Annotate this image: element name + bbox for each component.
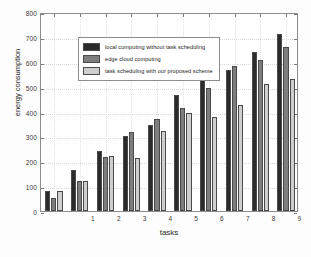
- legend-item-local-computing: local computing without task scheduling: [83, 41, 215, 53]
- legend-swatch-local-computing: [83, 43, 100, 51]
- bar: [83, 181, 88, 211]
- bar: [283, 47, 288, 211]
- y-tick-mark: [41, 39, 44, 40]
- y-tick-label: 400: [26, 109, 37, 116]
- legend-label-proposed-scheme: task scheduling with our proposed scheme: [105, 68, 213, 74]
- y-tick-label: 300: [26, 134, 37, 141]
- x-tick-label: 9: [297, 215, 301, 222]
- y-axis-label: energy consumption: [13, 23, 22, 143]
- x-tick-label: 6: [220, 215, 224, 222]
- bar: [238, 105, 243, 211]
- y-tick-mark: [41, 14, 44, 15]
- legend-label-edge-cloud: edge cloud computing: [105, 56, 161, 62]
- y-tick-mark: [41, 114, 44, 115]
- bar: [264, 84, 269, 211]
- bar: [135, 158, 140, 211]
- legend-item-proposed-scheme: task scheduling with our proposed scheme: [83, 65, 215, 77]
- y-tick-mark: [41, 213, 44, 214]
- bar-group: [277, 14, 295, 211]
- legend-item-edge-cloud: edge cloud computing: [83, 53, 215, 65]
- bar: [186, 113, 191, 211]
- bar: [57, 191, 62, 211]
- y-tick-mark: [41, 64, 44, 65]
- bar: [123, 136, 128, 211]
- bar: [148, 125, 153, 211]
- legend-label-local-computing: local computing without task scheduling: [105, 44, 205, 50]
- x-tick-label: 8: [272, 215, 276, 222]
- bar: [226, 70, 231, 211]
- bar: [51, 198, 56, 211]
- y-tick-label: 600: [26, 59, 37, 66]
- x-tick-label: 4: [168, 215, 172, 222]
- bar: [103, 157, 108, 211]
- bar: [200, 76, 205, 211]
- legend-swatch-proposed-scheme: [83, 67, 100, 75]
- y-tick-label: 200: [26, 159, 37, 166]
- legend-swatch-edge-cloud: [83, 55, 100, 63]
- bar: [232, 66, 237, 211]
- y-tick-mark: [41, 163, 44, 164]
- bar-group: [45, 14, 63, 211]
- chart-legend: local computing without task scheduling …: [78, 37, 220, 81]
- plot-area: local computing without task scheduling …: [40, 13, 298, 212]
- bar: [206, 88, 211, 211]
- bar: [129, 132, 134, 211]
- y-tick-label: 700: [26, 34, 37, 41]
- bar: [258, 60, 263, 211]
- x-axis-tick-labels: 12345678910: [40, 215, 298, 227]
- y-tick-label: 800: [26, 10, 37, 17]
- y-tick-mark: [294, 213, 297, 214]
- bar-group: [226, 14, 244, 211]
- x-tick-label: 7: [246, 215, 250, 222]
- y-tick-mark: [41, 188, 44, 189]
- y-tick-mark: [41, 89, 44, 90]
- bar: [71, 170, 76, 211]
- y-tick-label: 0: [33, 209, 37, 216]
- x-axis-label: tasks: [40, 228, 298, 237]
- bar: [97, 151, 102, 211]
- bar: [277, 34, 282, 211]
- bar: [154, 119, 159, 211]
- bar: [161, 131, 166, 211]
- bar: [109, 156, 114, 211]
- y-tick-label: 500: [26, 84, 37, 91]
- figure-canvas: 0100200300400500600700800 energy consump…: [0, 0, 311, 257]
- bar: [180, 108, 185, 211]
- bar: [252, 52, 257, 211]
- bar: [174, 95, 179, 211]
- bar-group: [252, 14, 270, 211]
- x-tick-label: 3: [143, 215, 147, 222]
- x-tick-label: 2: [117, 215, 121, 222]
- bar: [290, 79, 295, 211]
- bar: [77, 181, 82, 211]
- x-tick-label: 5: [194, 215, 198, 222]
- y-tick-mark: [41, 138, 44, 139]
- bar: [45, 191, 50, 211]
- y-tick-label: 100: [26, 184, 37, 191]
- bar: [212, 117, 217, 211]
- x-tick-label: 1: [91, 215, 95, 222]
